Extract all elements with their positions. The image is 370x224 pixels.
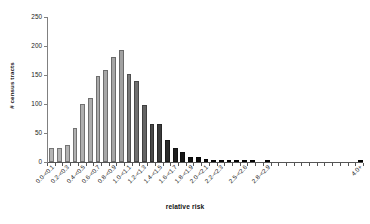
histogram-bar: [111, 57, 116, 162]
x-axis-tick-label-text: 4.0+: [328, 164, 363, 199]
histogram-bar: [96, 76, 101, 162]
histogram-bar: [250, 160, 255, 162]
histogram-bar: [358, 160, 363, 162]
y-axis-tick-label: 150: [31, 72, 42, 78]
histogram-bar: [103, 70, 108, 162]
histogram-bar: [211, 160, 216, 162]
histogram-bar: [57, 148, 62, 162]
y-axis-tick-label: 50: [35, 130, 42, 136]
histogram-bar: [150, 124, 155, 162]
histogram-bar: [134, 81, 139, 162]
histogram-bar: [227, 160, 232, 162]
plot-area: 050100150200250: [47, 17, 363, 163]
y-axis-title-label: # census tracts: [8, 62, 15, 109]
y-axis-tick-label: 200: [31, 43, 42, 49]
histogram-bar: [180, 152, 185, 162]
x-axis-tick-label: 4.0+: [328, 164, 363, 199]
histogram-bar: [204, 159, 209, 162]
histogram-bar: [119, 50, 124, 162]
histogram-bar: [188, 157, 193, 162]
histogram-bar: [157, 124, 162, 162]
histogram-bar: [196, 157, 201, 162]
histogram-figure: # census tracts 050100150200250 0.0-<0.1…: [0, 0, 370, 224]
histogram-bar: [49, 148, 54, 162]
histogram-bar: [219, 160, 224, 162]
histogram-bar: [234, 160, 239, 162]
x-axis-tick-labels: 0.0-<0.10.2-<0.30.4-<0.50.6-<0.70.8-<0.9…: [47, 164, 367, 200]
histogram-bar: [173, 148, 178, 162]
histogram-bar: [265, 160, 270, 162]
histogram-bar: [127, 74, 132, 162]
histogram-bar: [88, 98, 93, 162]
histogram-bar: [242, 160, 247, 162]
y-axis-title: # census tracts: [2, 0, 20, 170]
y-axis-tick-label: 250: [31, 14, 42, 20]
histogram-bar: [73, 128, 78, 162]
bars-group: [47, 17, 363, 163]
histogram-bar: [65, 145, 70, 162]
y-axis-tick-label: 100: [31, 101, 42, 107]
histogram-bar: [165, 140, 170, 162]
histogram-bar: [80, 104, 85, 162]
histogram-bar: [142, 105, 147, 162]
y-axis-tick-label: 0: [38, 159, 42, 165]
x-axis-title: relative risk: [0, 203, 370, 210]
